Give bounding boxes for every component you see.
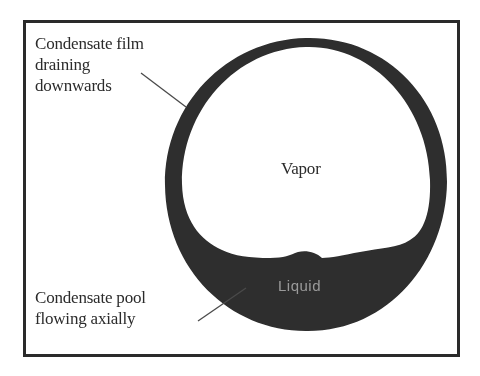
liquid-label: Liquid xyxy=(278,275,321,296)
condensate-film-label: Condensate film draining downwards xyxy=(35,33,144,96)
pool-label-line-2: flowing axially xyxy=(35,308,146,329)
vapor-label: Vapor xyxy=(281,158,321,179)
condensate-pool-label: Condensate pool flowing axially xyxy=(35,287,146,329)
film-label-line-3: downwards xyxy=(35,75,144,96)
film-label-line-1: Condensate film xyxy=(35,33,144,54)
pool-label-line-1: Condensate pool xyxy=(35,287,146,308)
film-label-line-2: draining xyxy=(35,54,144,75)
film-leader-line xyxy=(141,73,186,107)
